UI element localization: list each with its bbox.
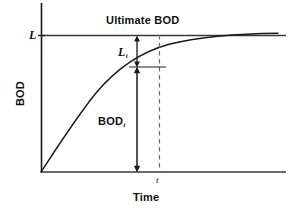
y-axis-title: BOD: [15, 71, 26, 117]
lt-measure-arrow: [134, 36, 140, 68]
x-axis-title: Time: [133, 192, 159, 203]
lt-annotation-label: Lt: [118, 46, 127, 58]
bodt-subscript: t: [123, 121, 125, 129]
ultimate-bod-label: Ultimate BOD: [106, 15, 179, 26]
bodt-annotation-label: BODt: [98, 116, 125, 127]
lt-subscript: t: [126, 52, 128, 60]
lt-base: L: [118, 45, 125, 59]
l-tick-label: L: [29, 29, 36, 41]
bod-curve-figure: Ultimate BOD L BOD Lt BODt t Time: [0, 0, 289, 212]
bodt-measure-arrow: [134, 67, 140, 173]
bodt-base: BOD: [98, 115, 123, 127]
bod-curve-svg: [0, 0, 289, 212]
t-tick-label: t: [156, 176, 159, 185]
